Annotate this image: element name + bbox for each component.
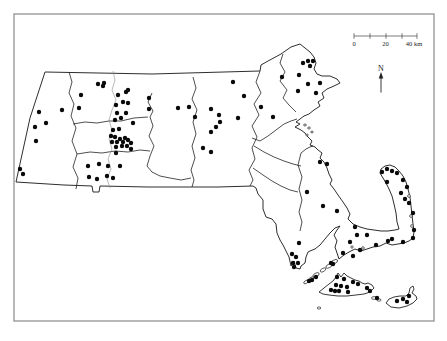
site-dot [296, 261, 300, 265]
islet [410, 215, 413, 218]
site-dot [318, 81, 322, 85]
site-dot [314, 275, 318, 279]
site-dot [385, 180, 389, 184]
site-dot [117, 127, 121, 131]
islet [304, 124, 307, 126]
site-dot [109, 134, 113, 138]
site-dot [401, 297, 405, 301]
scale-label-forty-km: 40 km [406, 40, 422, 47]
site-dot [380, 170, 384, 174]
site-dot [111, 176, 115, 180]
site-dot [355, 233, 359, 237]
site-dot [97, 162, 101, 166]
site-dot [405, 300, 409, 304]
site-dot [345, 285, 349, 289]
site-dot [339, 284, 343, 288]
site-dot [365, 233, 369, 237]
site-dot [412, 228, 416, 232]
site-dot [325, 162, 329, 166]
site-dot [292, 265, 296, 269]
county-boundary [191, 77, 197, 187]
site-dot [335, 209, 339, 213]
islet [317, 307, 321, 309]
site-dot [37, 110, 41, 114]
site-dot [337, 289, 341, 293]
islet [362, 247, 365, 250]
county-boundary [253, 168, 298, 192]
site-dot [96, 82, 100, 86]
islet [308, 127, 311, 129]
site-dot [95, 177, 99, 181]
site-dot [87, 175, 91, 179]
site-dot [346, 290, 350, 294]
site-dot [305, 190, 309, 194]
site-dot [301, 61, 305, 65]
site-dot [18, 167, 22, 171]
site-dot [118, 164, 122, 168]
county-boundary [73, 117, 148, 124]
site-dot [351, 280, 355, 284]
site-dot [297, 241, 301, 245]
site-dot [314, 91, 318, 95]
site-dot [201, 146, 205, 150]
site-dot [176, 106, 180, 110]
site-dot [121, 100, 125, 104]
site-dot [126, 101, 130, 105]
site-dot [351, 254, 355, 258]
site-dot [358, 248, 362, 252]
site-dot [217, 113, 221, 117]
site-dot [294, 255, 298, 259]
site-dot [318, 160, 322, 164]
site-dot [390, 237, 394, 241]
site-dot [115, 111, 119, 115]
site-dot [333, 289, 337, 293]
site-dot [242, 94, 246, 98]
scale-label-zero: 0 [352, 40, 355, 47]
site-dot [291, 261, 295, 265]
site-dot [356, 282, 360, 286]
site-dot [126, 88, 130, 92]
state-outline [16, 44, 414, 269]
site-dot [331, 262, 335, 266]
site-dot [308, 64, 312, 68]
site-dot [147, 96, 151, 100]
site-dot [407, 201, 411, 205]
site-dot [306, 59, 310, 63]
site-dot [231, 80, 235, 84]
site-dot [290, 252, 294, 256]
site-dot [405, 185, 409, 189]
site-dot [335, 275, 339, 279]
site-dot [60, 108, 64, 112]
map-figure: 0 20 40 km N [0, 0, 447, 341]
site-dot [86, 164, 90, 168]
site-dot [209, 150, 213, 154]
site-dot [296, 89, 300, 93]
site-dot [271, 115, 275, 119]
islet [306, 134, 308, 136]
site-dot [105, 174, 109, 178]
site-dot [21, 172, 25, 176]
site-dot [129, 147, 133, 151]
islet [311, 131, 314, 133]
site-dot [411, 236, 415, 240]
county-boundary [301, 146, 313, 153]
site-dot [385, 167, 389, 171]
site-dot [236, 116, 240, 120]
county-boundary [252, 119, 297, 141]
site-dot [395, 171, 399, 175]
site-dot [187, 105, 191, 109]
map-geometry [16, 44, 417, 309]
site-dot [401, 240, 405, 244]
county-boundary [147, 93, 191, 180]
site-dot [307, 279, 311, 283]
site-dot [297, 73, 301, 77]
site-dot [399, 191, 403, 195]
site-dot [114, 151, 118, 155]
site-dot [209, 130, 213, 134]
north-arrow: N [378, 64, 384, 93]
site-dot [193, 115, 197, 119]
site-dot [129, 141, 133, 145]
site-dot [218, 120, 222, 124]
site-dot [311, 59, 315, 63]
site-dot [114, 103, 118, 107]
